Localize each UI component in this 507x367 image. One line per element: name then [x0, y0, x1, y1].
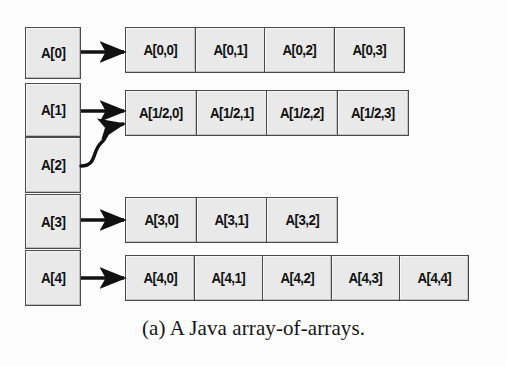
outer-array-cell-1: A[1]: [25, 83, 81, 137]
inner-array-cell-0-1: A[0,1]: [195, 27, 266, 73]
inner-array-row-3: A[3,0]A[3,1]A[3,2]: [125, 197, 338, 243]
inner-array-cell-label: A[0,3]: [352, 42, 386, 58]
inner-array-cell-label: A[1/2,3]: [351, 105, 395, 121]
inner-array-cell-3-0: A[4,0]: [125, 255, 195, 301]
inner-array-cell-0-0: A[0,0]: [125, 27, 196, 73]
inner-array-cell-label: A[3,1]: [215, 212, 249, 228]
outer-array-cell-3: A[3]: [25, 194, 81, 249]
outer-array-cell-label: A[2]: [41, 157, 66, 173]
outer-array-cell-4: A[4]: [25, 250, 81, 306]
inner-array-row-0: A[0,0]A[0,1]A[0,2]A[0,3]: [125, 27, 405, 73]
inner-array-cell-label: A[4,3]: [349, 270, 383, 286]
inner-array-cell-label: A[3,0]: [144, 212, 178, 228]
inner-array-cell-2-2: A[3,2]: [266, 197, 338, 243]
inner-array-cell-3-2: A[4,2]: [262, 255, 332, 301]
inner-array-cell-1-3: A[1/2,3]: [337, 90, 409, 136]
inner-array-row-4: A[4,0]A[4,1]A[4,2]A[4,3]A[4,4]: [125, 255, 469, 301]
outer-array-cell-0: A[0]: [25, 27, 81, 79]
outer-array-cell-label: A[4]: [41, 270, 66, 286]
inner-array-cell-label: A[4,0]: [143, 270, 177, 286]
inner-array-cell-label: A[0,1]: [213, 42, 247, 58]
inner-array-cell-label: A[1/2,0]: [139, 105, 183, 121]
inner-array-cell-3-1: A[4,1]: [194, 255, 264, 301]
outer-array-cell-label: A[1]: [41, 102, 66, 118]
inner-array-cell-label: A[1/2,1]: [210, 105, 254, 121]
inner-array-cell-label: A[3,2]: [285, 212, 319, 228]
inner-array-cell-2-1: A[3,1]: [196, 197, 268, 243]
inner-array-cell-2-0: A[3,0]: [125, 197, 197, 243]
outer-array-cell-label: A[0]: [41, 45, 66, 61]
inner-array-cell-0-3: A[0,3]: [334, 27, 405, 73]
inner-array-cell-1-1: A[1/2,1]: [196, 90, 268, 136]
inner-array-cell-3-4: A[4,4]: [399, 255, 469, 301]
inner-array-cell-1-0: A[1/2,0]: [125, 90, 197, 136]
inner-array-cell-label: A[4,4]: [417, 270, 451, 286]
inner-array-cell-3-3: A[4,3]: [331, 255, 401, 301]
outer-array-cell-2: A[2]: [25, 137, 81, 193]
inner-array-cell-label: A[4,1]: [212, 270, 246, 286]
inner-array-cell-label: A[0,2]: [283, 42, 317, 58]
figure-caption: (a) A Java array-of-arrays.: [0, 316, 507, 341]
inner-array-cell-label: A[1/2,2]: [280, 105, 324, 121]
inner-array-row-1-2: A[1/2,0]A[1/2,1]A[1/2,2]A[1/2,3]: [125, 90, 409, 136]
figure-array-of-arrays: A[0]A[1]A[2]A[3]A[4] A[0,0]A[0,1]A[0,2]A…: [0, 0, 507, 367]
inner-array-cell-0-2: A[0,2]: [264, 27, 335, 73]
inner-array-cell-label: A[0,0]: [144, 42, 178, 58]
outer-array-cell-label: A[3]: [41, 214, 66, 230]
outer-array-column: A[0]A[1]A[2]A[3]A[4]: [25, 27, 81, 306]
arrow-a2-icon: [81, 124, 123, 166]
inner-array-cell-label: A[4,2]: [280, 270, 314, 286]
inner-array-cell-1-2: A[1/2,2]: [266, 90, 338, 136]
